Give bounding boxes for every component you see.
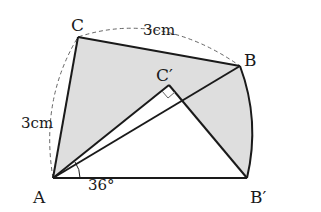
geometry-diagram: A B C C′ B′ 3cm 3cm 36° [0, 0, 321, 212]
label-A: A [32, 187, 46, 207]
label-C: C [71, 15, 84, 35]
label-angle: 36° [88, 176, 115, 194]
label-top-side: 3cm [143, 21, 175, 39]
label-C-prime: C′ [156, 65, 173, 85]
label-left-side: 3cm [21, 114, 53, 132]
label-B: B [244, 50, 257, 70]
label-B-prime: B′ [250, 187, 266, 207]
